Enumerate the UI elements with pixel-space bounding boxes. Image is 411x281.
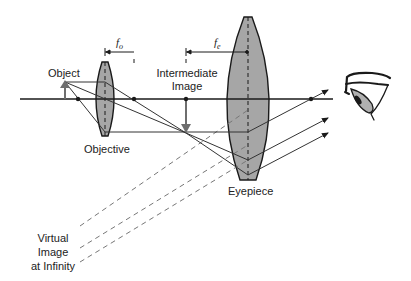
fe-label: fe	[214, 36, 221, 51]
objective-label: Objective	[84, 143, 130, 156]
eye-icon	[345, 73, 390, 120]
object-arrow	[60, 80, 70, 99]
virtual-label-line2: Image	[28, 245, 78, 259]
virtual-label-line1: Virtual	[28, 231, 78, 245]
eyepiece-label: Eyepiece	[228, 185, 273, 198]
virtual-label-line3: at Infinity	[28, 259, 78, 273]
fo-label: fo	[116, 36, 123, 51]
intermediate-image-label: Intermediate Image	[155, 67, 219, 93]
virtual-image-label: Virtual Image at Infinity	[28, 231, 78, 273]
intermediate-image-arrow	[181, 99, 191, 133]
intermediate-label-line1: Intermediate	[155, 67, 219, 80]
intermediate-label-line2: Image	[155, 80, 219, 93]
fo-label-sub: o	[119, 42, 123, 51]
object-label: Object	[48, 67, 80, 80]
fe-label-sub: e	[217, 42, 221, 51]
